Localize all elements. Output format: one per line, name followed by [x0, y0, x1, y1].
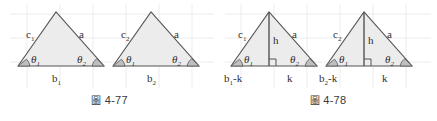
triangle-4-base-right-label: k [382, 72, 388, 84]
figure-4-78-caption-mark: 圖 [310, 95, 320, 106]
triangle-4-side-left-label: c2 [333, 28, 342, 43]
figure-4-77-canvas: c1 a b1 θ1 θ2 c2 a b2 θ1 θ2 [0, 0, 219, 92]
triangle-1-side-right-label: a [79, 28, 84, 40]
triangle-4-height-label: h [368, 34, 374, 46]
figure-4-78-caption-number: 4-78 [323, 94, 346, 106]
figure-4-77-caption: 圖 4-77 [0, 92, 219, 107]
figure-4-77-caption-number: 4-77 [105, 94, 128, 106]
triangle-1: c1 a b1 θ1 θ2 [18, 12, 104, 87]
triangle-3-side-right-label: a [292, 28, 297, 40]
figure-4-77-caption-mark: 圖 [91, 95, 101, 106]
triangle-4-side-right-label: a [387, 28, 392, 40]
triangle-3: c1 a h b1-k k θ1 θ2 [224, 12, 317, 87]
triangle-4: c2 a h b2-k k θ1 θ2 [319, 12, 412, 87]
triangle-2-side-left-label: c2 [121, 28, 130, 43]
triangle-3-height-label: h [273, 34, 279, 46]
figure-4-78-canvas: c1 a h b1-k k θ1 θ2 c2 a h b2-k k θ1 [219, 0, 437, 92]
triangle-3-base-left-label: b1-k [224, 72, 243, 87]
figure-4-78: c1 a h b1-k k θ1 θ2 c2 a h b2-k k θ1 [219, 0, 437, 121]
triangle-3-side-left-label: c1 [238, 28, 247, 43]
figure-4-78-caption: 圖 4-78 [219, 92, 437, 107]
triangle-3-base-right-label: k [287, 72, 293, 84]
triangle-2-base-label: b2 [147, 72, 157, 87]
figure-sheet: c1 a b1 θ1 θ2 c2 a b2 θ1 θ2 圖 4-77 [0, 0, 437, 121]
figure-4-77: c1 a b1 θ1 θ2 c2 a b2 θ1 θ2 圖 4-77 [0, 0, 219, 121]
triangle-2-side-right-label: a [174, 28, 179, 40]
triangle-4-base-left-label: b2-k [319, 72, 338, 87]
